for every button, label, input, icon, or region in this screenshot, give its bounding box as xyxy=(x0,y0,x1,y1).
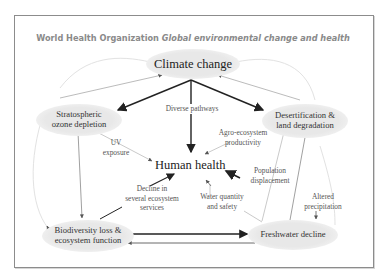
label-agro-ecosystem: Agro-ecosystem productivity xyxy=(208,128,278,147)
node-climate-change: Climate change xyxy=(146,49,240,79)
arrow-freshwater-to-human xyxy=(244,211,262,222)
arrow-ozone-to-biodiversity xyxy=(78,132,82,218)
line-biodiversity-to-ecosystem xyxy=(100,207,122,219)
node-biodiversity: Biodiversity loss & ecosystem function xyxy=(42,220,134,252)
faint-curve-left-top xyxy=(60,58,150,88)
faint-curve-right-top xyxy=(236,59,315,100)
label-population-displacement: Population displacement xyxy=(242,166,298,185)
label-ecosystem-services: Decline in several ecosystem services xyxy=(120,184,184,213)
label-uv-exposure: UV exposure xyxy=(98,138,134,157)
node-stratospheric-ozone-label: Stratospheric ozone depletion xyxy=(52,110,107,130)
arrow-human-water xyxy=(206,180,211,186)
node-biodiversity-label: Biodiversity loss & ecosystem function xyxy=(55,226,122,246)
node-human-health-label: Human health xyxy=(155,158,225,172)
label-water-quantity: Water quantity and safety xyxy=(190,192,254,211)
node-freshwater-decline: Freshwater decline xyxy=(248,220,338,250)
label-altered-precipitation: Altered precipitation xyxy=(300,192,346,211)
label-diverse-pathways: Diverse pathways xyxy=(160,104,224,114)
node-freshwater-decline-label: Freshwater decline xyxy=(260,230,325,240)
node-stratospheric-ozone: Stratospheric ozone depletion xyxy=(36,104,122,136)
node-desertification-label: Desertification & land degradation xyxy=(275,111,335,131)
node-climate-change-label: Climate change xyxy=(154,57,232,71)
faint-curve-right-side xyxy=(320,146,335,225)
arrow-ozone-to-climate xyxy=(60,75,162,98)
node-human-health: Human health xyxy=(155,158,225,173)
arrow-population-to-human xyxy=(226,171,240,178)
